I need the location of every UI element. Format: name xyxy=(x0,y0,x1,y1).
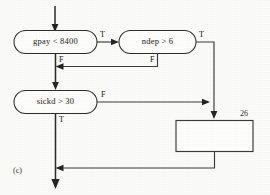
flowchart-figure: gpay < 8400 T ndep > 6 T F xyxy=(0,0,270,195)
edge-label-ndep-true: T xyxy=(199,30,204,39)
decision-node-ndep-label: ndep > 6 xyxy=(142,36,173,46)
edge-gpay-false xyxy=(52,54,59,91)
edge-label-gpay-true: T xyxy=(100,30,105,39)
decision-node-sickd[interactable]: sickd > 30 xyxy=(14,91,97,114)
edge-entry xyxy=(52,6,59,32)
edge-ndep-true xyxy=(196,42,217,119)
process-node-26-number: 26 xyxy=(240,109,248,118)
edge-label-gpay-false: F xyxy=(59,55,64,64)
decision-node-ndep[interactable]: ndep > 6 xyxy=(119,31,196,54)
process-node-26[interactable] xyxy=(176,121,253,152)
decision-node-sickd-label: sickd > 30 xyxy=(37,96,75,106)
decision-node-gpay[interactable]: gpay < 8400 xyxy=(14,31,97,54)
decision-node-gpay-label: gpay < 8400 xyxy=(33,36,78,46)
edge-label-ndep-false: F xyxy=(150,55,155,64)
edge-sickd-true xyxy=(51,114,59,190)
edge-gpay-true xyxy=(97,39,119,46)
edge-label-sickd-false: F xyxy=(101,90,106,99)
edge-sickd-false xyxy=(97,99,210,106)
edge-process-return xyxy=(56,152,215,172)
edge-ndep-false xyxy=(56,54,158,70)
flowchart-canvas: gpay < 8400 T ndep > 6 T F xyxy=(0,0,270,195)
figure-caption: (c) xyxy=(13,166,22,175)
edge-label-sickd-true: T xyxy=(59,115,64,124)
